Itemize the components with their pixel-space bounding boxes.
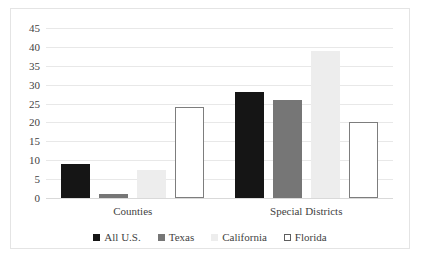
y-axis-tick-label: 40 xyxy=(29,41,40,52)
bar-group: Counties xyxy=(46,28,220,198)
legend-item[interactable]: All U.S. xyxy=(93,232,140,243)
y-axis-tick-label: 20 xyxy=(29,117,40,128)
bars xyxy=(46,28,220,198)
y-axis-tick-label: 35 xyxy=(29,60,40,71)
x-axis-category-label: Counties xyxy=(46,206,220,217)
bar-florida-special-districts[interactable] xyxy=(349,122,378,198)
bar-california-special-districts[interactable] xyxy=(311,51,340,198)
y-axis-tick-label: 45 xyxy=(29,23,40,34)
y-axis-tick-label: 0 xyxy=(35,193,41,204)
legend-item[interactable]: California xyxy=(211,232,267,243)
bar-group: Special Districts xyxy=(220,28,394,198)
chart-legend: All U.S.TexasCaliforniaFlorida xyxy=(11,232,409,243)
bars xyxy=(220,28,394,198)
legend-label: California xyxy=(222,232,267,243)
y-axis-tick-label: 10 xyxy=(29,155,40,166)
bar-texas-special-districts[interactable] xyxy=(273,100,302,198)
legend-label: Florida xyxy=(295,232,327,243)
chart-container: 454035302520151050 CountiesSpecial Distr… xyxy=(10,8,410,249)
x-axis-category-label: Special Districts xyxy=(220,206,394,217)
legend-swatch-icon xyxy=(158,234,165,241)
legend-swatch-icon xyxy=(211,234,218,241)
y-axis-tick-label: 5 xyxy=(35,174,41,185)
bar-all-u-s-special-districts[interactable] xyxy=(235,92,264,198)
legend-label: All U.S. xyxy=(104,232,140,243)
legend-item[interactable]: Florida xyxy=(284,232,327,243)
legend-swatch-icon xyxy=(284,234,291,241)
plot-area: 454035302520151050 CountiesSpecial Distr… xyxy=(46,28,393,198)
legend-item[interactable]: Texas xyxy=(158,232,195,243)
y-axis-tick-label: 15 xyxy=(29,136,40,147)
bar-florida-counties[interactable] xyxy=(175,107,204,198)
y-axis-tick-label: 30 xyxy=(29,79,40,90)
legend-label: Texas xyxy=(169,232,195,243)
bar-texas-counties[interactable] xyxy=(99,194,128,198)
legend-swatch-icon xyxy=(93,234,100,241)
bar-all-u-s-counties[interactable] xyxy=(61,164,90,198)
y-axis-tick-label: 25 xyxy=(29,98,40,109)
bar-california-counties[interactable] xyxy=(137,170,166,198)
gridline xyxy=(46,198,393,199)
